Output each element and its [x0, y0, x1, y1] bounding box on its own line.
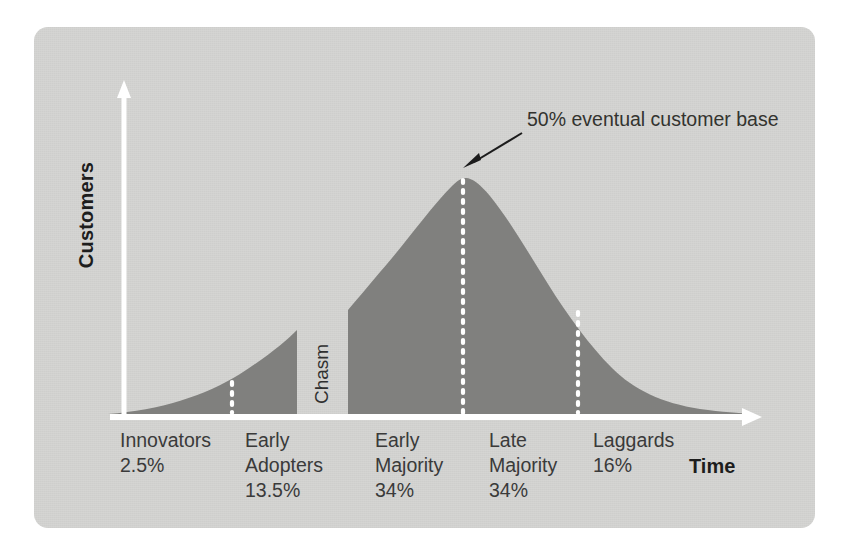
segment-name-early-majority-line2: Majority — [375, 453, 443, 478]
segment-name-late-majority-line2: Majority — [489, 453, 557, 478]
segment-label-innovators: Innovators 2.5% — [120, 428, 211, 478]
x-axis-label: Time — [689, 455, 735, 478]
segment-name-early-majority-line1: Early — [375, 428, 443, 453]
curve-early-segment — [108, 330, 297, 414]
segment-name-innovators: Innovators — [120, 428, 211, 453]
chasm-label: Chasm — [311, 344, 333, 404]
segment-percent-innovators: 2.5% — [120, 453, 211, 478]
annotation-label: 50% eventual customer base — [527, 108, 778, 131]
y-axis-label: Customers — [75, 162, 98, 268]
curve-main-segment — [348, 178, 752, 414]
adoption-lifecycle-figure: Customers Chasm 50% eventual customer ba… — [0, 0, 847, 558]
segment-percent-late-majority: 34% — [489, 478, 557, 503]
segment-label-early-majority: Early Majority 34% — [375, 428, 443, 503]
y-axis — [117, 80, 131, 416]
segment-label-early-adopters: Early Adopters 13.5% — [245, 428, 323, 503]
segment-label-laggards: Laggards 16% — [593, 428, 674, 478]
segment-name-laggards: Laggards — [593, 428, 674, 453]
segment-percent-early-adopters: 13.5% — [245, 478, 323, 503]
segment-name-early-adopters-line2: Adopters — [245, 453, 323, 478]
segment-label-late-majority: Late Majority 34% — [489, 428, 557, 503]
annotation-arrow — [463, 133, 522, 168]
segment-percent-early-majority: 34% — [375, 478, 443, 503]
segment-percent-laggards: 16% — [593, 453, 674, 478]
segment-name-late-majority-line1: Late — [489, 428, 557, 453]
segment-name-early-adopters-line1: Early — [245, 428, 323, 453]
